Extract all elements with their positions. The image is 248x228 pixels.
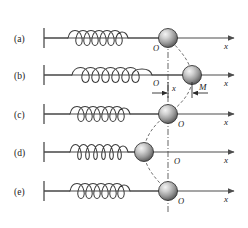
mass-ball — [159, 105, 178, 124]
panel-label-d: (d) — [14, 148, 25, 159]
panel-row-c: (c) O x — [14, 104, 234, 129]
origin-label-d: O — [174, 156, 180, 166]
mass-label: M — [198, 82, 207, 92]
diagram-canvas: (a) O x (b) O M x x — [0, 0, 248, 228]
panel-label-b: (b) — [14, 71, 25, 82]
origin-label-c: O — [178, 119, 184, 129]
origin-label-b: O — [153, 78, 159, 88]
panel-row-d: (d) O x — [14, 142, 234, 166]
axis-label-a: x — [223, 41, 228, 51]
spring-oscillator-figure: (a) O x (b) O M x x — [0, 0, 248, 228]
axis-label-d: x — [223, 155, 228, 165]
axis-label-c: x — [223, 117, 228, 127]
origin-label-a: O — [153, 43, 159, 53]
displacement-label: x — [171, 83, 176, 93]
mass-ball — [159, 182, 178, 201]
panel-row-a: (a) O x — [14, 28, 234, 53]
axis-label-e: x — [223, 194, 228, 204]
panel-row-e: (e) O x — [14, 181, 234, 206]
axis-label-b: x — [223, 78, 228, 88]
origin-label-e: O — [178, 196, 184, 206]
mass-ball — [135, 143, 154, 162]
mass-ball — [159, 29, 178, 48]
panel-label-c: (c) — [14, 110, 25, 121]
panel-label-e: (e) — [14, 187, 25, 198]
panel-row-b: (b) O M x — [14, 65, 234, 92]
panel-label-a: (a) — [14, 34, 25, 45]
